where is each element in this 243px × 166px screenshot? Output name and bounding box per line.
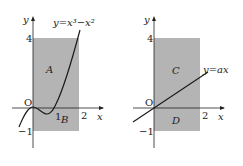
right-line-label: y=ax	[202, 64, 229, 75]
left-curve-label: y=x³−x²	[52, 17, 95, 28]
left-plot: y x O 4 −1 1 2 y=x³−x² A B	[12, 14, 104, 148]
right-tick-2: 2	[202, 110, 208, 121]
left-y-arrow-icon	[31, 16, 35, 21]
left-y-label: y	[22, 14, 29, 25]
right-tick-4: 4	[147, 33, 153, 44]
diagram-canvas: y x O 4 −1 1 2 y=x³−x² A B y x O 4 −1 2 …	[0, 0, 243, 166]
right-plot: y x O 4 −1 2 y=ax C D	[133, 14, 229, 148]
right-x-arrow-icon	[220, 106, 225, 110]
right-region-d: D	[171, 115, 180, 126]
left-origin-label: O	[24, 97, 32, 108]
right-y-arrow-icon	[152, 16, 156, 21]
right-tick-neg1: −1	[139, 126, 154, 137]
right-y-label: y	[143, 14, 150, 25]
left-region-b: B	[60, 114, 68, 125]
left-tick-2: 2	[81, 110, 87, 121]
left-x-label: x	[97, 111, 103, 122]
right-x-label: x	[218, 111, 224, 122]
left-tick-neg1: −1	[18, 126, 33, 137]
left-tick-4: 4	[26, 33, 32, 44]
left-region-a: A	[45, 64, 53, 75]
left-x-arrow-icon	[99, 106, 104, 110]
right-origin-label: O	[145, 97, 153, 108]
right-region-c: C	[172, 65, 180, 76]
